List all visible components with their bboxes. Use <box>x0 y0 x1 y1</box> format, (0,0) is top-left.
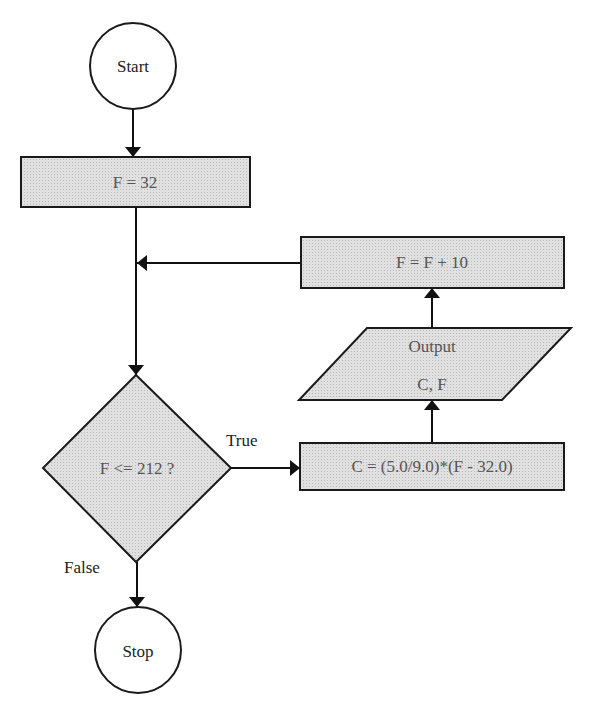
true-label: True <box>226 431 258 450</box>
output-label-line1: Output <box>408 337 456 356</box>
output-node: Output C, F <box>299 328 571 400</box>
decision-label: F <= 212 ? <box>100 459 174 478</box>
init-label: F = 32 <box>113 173 158 192</box>
increment-node: F = F + 10 <box>301 237 564 288</box>
false-label: False <box>64 558 100 577</box>
stop-label: Stop <box>122 642 153 661</box>
start-label: Start <box>117 57 149 76</box>
compute-node: C = (5.0/9.0)*(F - 32.0) <box>300 443 564 490</box>
start-node: Start <box>90 23 176 109</box>
stop-node: Stop <box>95 607 181 693</box>
output-label-line2: C, F <box>417 375 446 394</box>
increment-label: F = F + 10 <box>396 253 468 272</box>
init-node: F = 32 <box>21 157 250 207</box>
compute-label: C = (5.0/9.0)*(F - 32.0) <box>351 457 512 476</box>
flowchart-canvas: Start F = 32 F = F + 10 Output C, F C = … <box>0 0 589 713</box>
decision-node: F <= 212 ? <box>43 375 231 562</box>
